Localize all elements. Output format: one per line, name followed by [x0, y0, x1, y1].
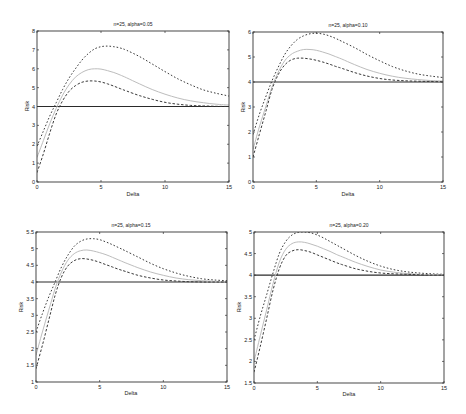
series-middle [254, 242, 444, 362]
y-tick-label: 5 [249, 229, 252, 235]
y-axis-label: Risk [18, 301, 24, 312]
y-tick-label: 3.5 [244, 294, 252, 300]
y-tick-label: 4.5 [244, 251, 252, 257]
series-middle [36, 250, 227, 355]
y-tick-label: 4 [248, 79, 251, 85]
y-tick-label: 6 [32, 66, 35, 72]
y-tick-label: 2 [248, 129, 251, 135]
y-tick-label: 1.5 [26, 362, 34, 368]
x-axis-label: Delta [343, 391, 357, 397]
subplot-2: n=25, alpha=0.10 Delta Risk 051015012345… [240, 22, 446, 197]
x-tick-label: 10 [162, 184, 168, 190]
y-axis-label: Risk [240, 101, 246, 112]
x-tick-label: 10 [377, 184, 383, 190]
y-tick-label: 1.5 [244, 380, 252, 386]
y-tick-label: 3 [249, 315, 252, 321]
series-upper-bound [254, 232, 444, 340]
y-tick-label: 0 [248, 179, 251, 185]
y-tick-label: 2.5 [244, 337, 252, 343]
y-tick-label: 1 [32, 160, 35, 166]
x-tick-label: 0 [34, 384, 37, 390]
axes-frame [36, 232, 227, 382]
subplot-3: n=25, alpha=0.15 Delta Risk 05101511.522… [18, 222, 230, 396]
y-tick-label: 3 [248, 104, 251, 110]
x-tick-label: 0 [251, 184, 254, 190]
y-tick-label: 4 [249, 272, 252, 278]
plot-title: n=25, alpha=0.05 [114, 21, 153, 27]
y-tick-label: 4.5 [26, 262, 34, 268]
series-upper-bound [253, 33, 443, 134]
x-axis-label: Delta [342, 191, 356, 197]
x-tick-label: 10 [160, 384, 166, 390]
y-tick-label: 1 [31, 379, 34, 385]
y-tick-label: 5 [248, 54, 251, 60]
x-axis-label: Delta [127, 191, 141, 197]
y-tick-label: 3 [31, 312, 34, 318]
plot-area [36, 239, 227, 369]
x-tick-label: 15 [224, 384, 230, 390]
y-tick-label: 4 [31, 279, 34, 285]
plot-title: n=25, alpha=0.20 [330, 222, 369, 228]
x-tick-label: 5 [316, 385, 319, 391]
y-tick-label: 1 [248, 154, 251, 160]
y-tick-label: 2 [249, 358, 252, 364]
series-lower-bound [36, 259, 227, 369]
x-tick-label: 15 [440, 184, 446, 190]
series-lower-bound [254, 250, 444, 373]
axes-frame [253, 32, 443, 182]
y-tick-label: 7 [32, 47, 35, 53]
x-tick-label: 15 [441, 385, 447, 391]
y-axis-label: Risk [236, 301, 242, 312]
plot-title: n=25, alpha=0.15 [112, 222, 151, 228]
x-tick-label: 15 [226, 184, 232, 190]
y-tick-label: 0 [32, 179, 35, 185]
y-tick-label: 5 [31, 246, 34, 252]
y-tick-label: 3 [32, 122, 35, 128]
y-tick-label: 2.5 [26, 329, 34, 335]
y-axis-label: Risk [24, 100, 30, 111]
plot-title: n=25, alpha=0.10 [329, 22, 368, 28]
y-tick-label: 2 [31, 346, 34, 352]
series-middle [253, 49, 443, 149]
series-middle [37, 69, 229, 158]
x-axis-label: Delta [125, 390, 139, 396]
x-tick-label: 5 [98, 384, 101, 390]
y-tick-label: 6 [248, 29, 251, 35]
plot-area [253, 33, 443, 157]
x-tick-label: 0 [252, 385, 255, 391]
y-tick-label: 2 [32, 141, 35, 147]
y-tick-label: 8 [32, 28, 35, 34]
figure: n=25, alpha=0.05 Delta Risk 051015012345… [0, 0, 466, 414]
x-tick-label: 0 [35, 184, 38, 190]
y-tick-label: 4 [32, 104, 35, 110]
y-tick-label: 5 [32, 85, 35, 91]
series-lower-bound [253, 58, 443, 157]
plot-area [254, 232, 444, 372]
series-lower-bound [37, 81, 229, 173]
x-tick-label: 5 [99, 184, 102, 190]
y-tick-label: 3.5 [26, 296, 34, 302]
series-upper-bound [36, 239, 227, 332]
subplot-4: n=25, alpha=0.20 Delta Risk 0510151.522.… [236, 222, 447, 397]
y-tick-label: 5.5 [26, 229, 34, 235]
x-tick-label: 10 [378, 385, 384, 391]
x-tick-label: 5 [315, 184, 318, 190]
subplot-1: n=25, alpha=0.05 Delta Risk 051015012345… [24, 21, 232, 197]
plot-area [37, 46, 229, 173]
